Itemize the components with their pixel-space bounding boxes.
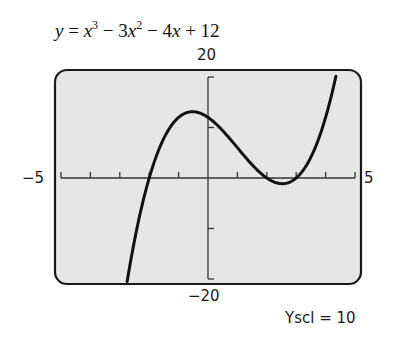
graph-screen <box>0 0 393 341</box>
